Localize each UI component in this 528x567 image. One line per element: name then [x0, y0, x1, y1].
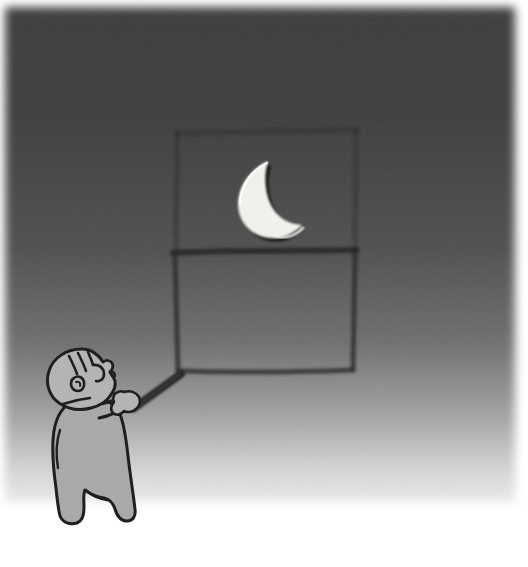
illustration-canvas: Child Pointing a Stick at a Crescent Moo… [0, 0, 528, 567]
illustration-svg [0, 0, 528, 567]
window-mullion [173, 250, 357, 253]
